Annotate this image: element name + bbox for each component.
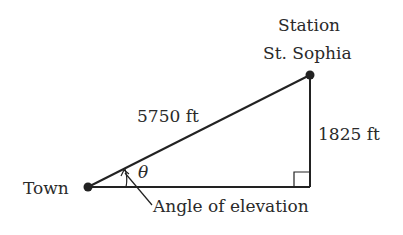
station-label-line2: St. Sophia (263, 45, 352, 62)
vertical-side-label: 1825 ft (318, 126, 380, 143)
angle-symbol: θ (138, 164, 148, 181)
station-point (306, 71, 315, 80)
station-label-line1: Station (278, 17, 340, 34)
hypotenuse-line (88, 75, 310, 187)
hypotenuse-label: 5750 ft (137, 108, 199, 125)
town-label: Town (23, 180, 69, 197)
town-point (84, 183, 93, 192)
angle-of-elevation-label: Angle of elevation (153, 198, 309, 215)
right-angle-marker (294, 172, 310, 187)
